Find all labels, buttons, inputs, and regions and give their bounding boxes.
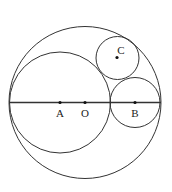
point-dot (58, 101, 61, 104)
point-label: A (56, 107, 64, 119)
point-c: C (115, 44, 124, 59)
geometry-diagram: AOBC (0, 0, 172, 192)
point-dot (115, 56, 118, 59)
point-label: C (117, 44, 124, 56)
point-o: O (81, 101, 89, 119)
point-a: A (56, 101, 64, 119)
points: AOBC (56, 44, 139, 119)
point-dot (133, 101, 136, 104)
point-label: O (81, 107, 89, 119)
point-b: B (131, 101, 138, 119)
point-dot (83, 101, 86, 104)
point-label: B (131, 107, 138, 119)
